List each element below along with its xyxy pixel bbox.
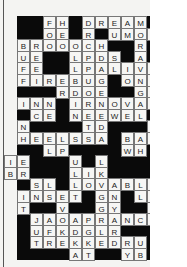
grid-cell: C: [134, 213, 147, 226]
grid-cell: N: [30, 190, 43, 203]
grid-cell: B: [134, 248, 147, 261]
puzzle-page: FHDREAMOERUMOEBROOOCHRUELPDSAFELPALIVEFI…: [0, 0, 187, 267]
grid-cell: E: [95, 236, 108, 249]
grid-cell: L: [43, 144, 56, 157]
grid-cell: S: [82, 132, 95, 145]
grid-cell: L: [134, 190, 147, 203]
grid-cell: T: [82, 248, 95, 261]
grid-cell: E: [121, 109, 134, 122]
grid-cell: F: [17, 74, 30, 87]
grid-cell: R: [17, 167, 30, 180]
grid-cell: O: [43, 39, 56, 52]
grid-cell: M: [121, 28, 134, 41]
grid-cell: L: [108, 62, 121, 75]
grid-cell: D: [108, 236, 121, 249]
grid-cell: W: [121, 144, 134, 157]
page-edge: [3, 0, 4, 267]
grid-cell: T: [17, 202, 30, 215]
grid-cell: N: [69, 109, 82, 122]
grid-cell: S: [69, 132, 82, 145]
grid-cell: A: [95, 132, 108, 145]
grid-cell: E: [43, 109, 56, 122]
grid-cell: R: [43, 236, 56, 249]
grid-cell: T: [30, 236, 43, 249]
grid-cell: L: [134, 109, 147, 122]
grid-cell: I: [17, 97, 30, 110]
grid-cell: U: [108, 28, 121, 41]
grid-cell: I: [30, 74, 43, 87]
grid-cell: O: [121, 74, 134, 87]
grid-cell: H: [134, 144, 147, 157]
grid-cell: S: [43, 190, 56, 203]
grid-cell: A: [69, 248, 82, 261]
grid-cell: E: [56, 236, 69, 249]
torn-edge: [150, 0, 187, 267]
grid-cell: B: [121, 178, 134, 191]
grid-cell: T: [69, 190, 82, 203]
grid-cell: B: [4, 167, 17, 180]
grid-cell: R: [43, 74, 56, 87]
grid-cell: O: [56, 39, 69, 52]
grid-cell: W: [108, 109, 121, 122]
grid-cell: R: [56, 86, 69, 99]
grid-cell: P: [56, 144, 69, 157]
grid-cell: E: [30, 132, 43, 145]
grid-cell: C: [30, 109, 43, 122]
grid-cell: O: [82, 178, 95, 191]
grid-cell: N: [121, 213, 134, 226]
grid-cell: Y: [121, 248, 134, 261]
grid-cell: H: [17, 132, 30, 145]
grid-cell: R: [95, 16, 108, 29]
